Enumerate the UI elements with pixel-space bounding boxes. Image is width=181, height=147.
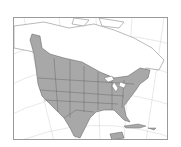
map-frame (13, 17, 168, 140)
north-america-range-map (14, 18, 168, 140)
